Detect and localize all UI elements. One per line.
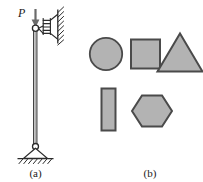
engineering-figure: P bbox=[0, 0, 203, 182]
rectangle-shape bbox=[102, 89, 116, 131]
coil-spring-icon bbox=[39, 15, 58, 40]
load-label-p: P bbox=[17, 6, 26, 20]
support-triangle-icon bbox=[24, 148, 48, 158]
ground-support-hatching bbox=[18, 159, 54, 164]
panel-a-group: P bbox=[17, 6, 64, 180]
triangle-shape bbox=[158, 34, 203, 72]
square-shape bbox=[131, 40, 160, 69]
caption-panel-a: (a) bbox=[29, 167, 42, 180]
caption-panel-b: (b) bbox=[144, 167, 157, 180]
bottom-pin-support bbox=[24, 144, 48, 159]
column-member bbox=[34, 28, 37, 146]
figure-canvas: P bbox=[0, 0, 203, 182]
wall-hatching bbox=[58, 7, 64, 45]
hexagon-shape bbox=[132, 96, 172, 127]
circle-shape bbox=[90, 38, 122, 70]
panel-b-group: (b) bbox=[90, 34, 203, 181]
top-hinge-pin-icon bbox=[32, 25, 38, 31]
